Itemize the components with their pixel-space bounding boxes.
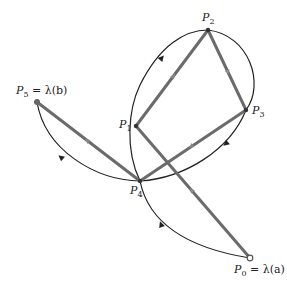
vertex-p1 <box>134 124 138 128</box>
label-p2: P2 <box>202 11 215 26</box>
vertex-p5 <box>34 99 40 105</box>
arrow-head-icon <box>158 53 166 61</box>
path-diagram <box>0 0 287 293</box>
vertex-p4 <box>138 179 142 183</box>
label-p5: P5 = λ(b) <box>16 84 67 99</box>
label-p4: P4 <box>130 184 143 199</box>
label-p0: P0 = λ(a) <box>234 263 285 278</box>
diagram-canvas: P0 = λ(a) P1 P2 P3 P4 P5 = λ(b) <box>0 0 287 293</box>
curve-p4-p2 <box>130 30 208 181</box>
label-p3: P3 <box>252 104 265 119</box>
label-p1: P1 <box>119 118 132 133</box>
curve-p2-p4 <box>140 30 254 181</box>
vertex-p3 <box>244 108 248 112</box>
arrow-head-icon <box>157 220 165 228</box>
vertex-p0 <box>247 255 253 261</box>
inscribed-polygon <box>37 30 250 258</box>
vertex-p2 <box>206 28 210 32</box>
vertices <box>34 28 253 261</box>
arrow-head-icon <box>56 153 64 161</box>
